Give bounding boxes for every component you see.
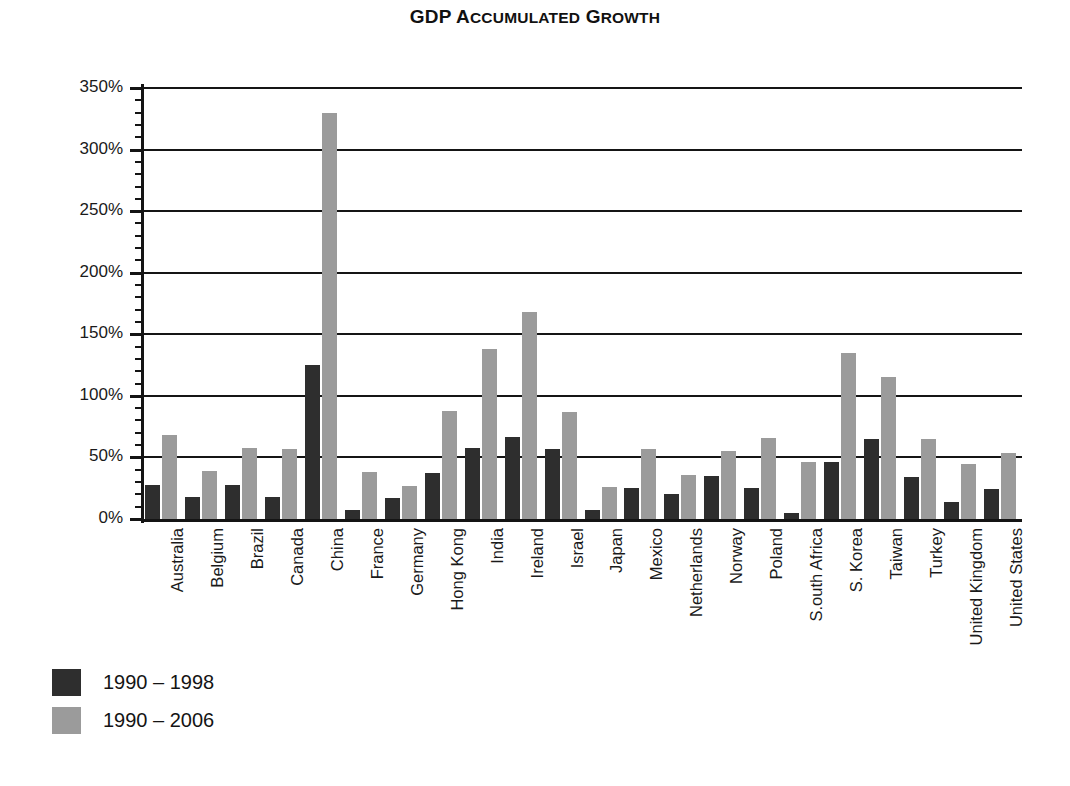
- y-tick-minor: [135, 259, 143, 261]
- bar-series1: [664, 494, 679, 519]
- bar-series2: [721, 451, 736, 519]
- bar-series2: [841, 353, 856, 519]
- bar-group: [383, 88, 423, 519]
- bar-series1: [425, 473, 440, 519]
- x-axis-tick-label: Belgium: [209, 528, 226, 668]
- y-tick-minor: [135, 198, 143, 200]
- x-axis-tick-label: Ireland: [529, 528, 546, 668]
- bar-series2: [442, 411, 457, 519]
- bar-group: [183, 88, 223, 519]
- chart-legend: 1990 – 19981990 – 2006: [52, 663, 214, 739]
- y-axis-tick-label: 250%: [80, 200, 123, 220]
- y-tick-major: [130, 272, 143, 275]
- y-tick-minor: [135, 296, 143, 298]
- y-axis-tick-label: 200%: [80, 262, 123, 282]
- bar-group: [303, 88, 343, 519]
- bar-series1: [784, 513, 799, 519]
- y-tick-minor: [135, 370, 143, 372]
- bar-series2: [522, 312, 537, 519]
- bar-group: [822, 88, 862, 519]
- y-tick-major: [130, 456, 143, 459]
- y-axis-tick-label: 350%: [80, 77, 123, 97]
- y-tick-major: [130, 87, 143, 90]
- bars-layer: [143, 88, 1022, 519]
- bar-group: [902, 88, 942, 519]
- legend-item: 1990 – 2006: [52, 701, 214, 739]
- bar-series1: [305, 365, 320, 519]
- y-tick-minor: [135, 407, 143, 409]
- y-tick-minor: [135, 309, 143, 311]
- bar-group: [503, 88, 543, 519]
- bar-series1: [345, 510, 360, 519]
- x-axis-tick-label: Hong Kong: [449, 528, 466, 668]
- bar-series1: [824, 462, 839, 519]
- bar-series1: [585, 510, 600, 519]
- y-tick-major: [130, 149, 143, 152]
- y-tick-major: [130, 333, 143, 336]
- legend-label: 1990 – 2006: [103, 709, 214, 732]
- bar-series2: [881, 377, 896, 519]
- y-tick-minor: [135, 346, 143, 348]
- bar-group: [702, 88, 742, 519]
- y-tick-minor: [135, 469, 143, 471]
- bar-group: [223, 88, 263, 519]
- x-axis-tick-label: United States: [1008, 528, 1025, 668]
- bar-series2: [641, 449, 656, 519]
- bar-series2: [1001, 453, 1016, 519]
- x-axis-tick-label: Mexico: [648, 528, 665, 668]
- bar-group: [742, 88, 782, 519]
- y-tick-minor: [135, 506, 143, 508]
- y-tick-minor: [135, 186, 143, 188]
- y-tick-minor: [135, 419, 143, 421]
- bar-group: [263, 88, 303, 519]
- x-axis-tick-label: Turkey: [928, 528, 945, 668]
- bar-series2: [602, 487, 617, 519]
- bar-series1: [145, 485, 160, 519]
- bar-group: [982, 88, 1022, 519]
- y-tick-major: [130, 518, 143, 521]
- x-axis-tick-label: Taiwan: [888, 528, 905, 668]
- bar-series2: [961, 464, 976, 519]
- bar-group: [862, 88, 902, 519]
- y-tick-minor: [135, 493, 143, 495]
- x-axis-tick-label: Japan: [608, 528, 625, 668]
- x-axis-tick-label: Israel: [569, 528, 586, 668]
- bar-group: [622, 88, 662, 519]
- y-tick-minor: [135, 432, 143, 434]
- chart-title: GDP ACCUMULATED GROWTH: [0, 6, 1070, 28]
- bar-series1: [704, 476, 719, 519]
- bar-series2: [761, 438, 776, 519]
- bar-group: [583, 88, 623, 519]
- x-axis-tick-label: Australia: [169, 528, 186, 668]
- bar-group: [942, 88, 982, 519]
- bar-series1: [505, 437, 520, 520]
- y-tick-major: [130, 210, 143, 213]
- bar-series2: [801, 462, 816, 519]
- x-axis-tick-label: Germany: [409, 528, 426, 668]
- y-tick-minor: [135, 383, 143, 385]
- x-axis-tick-label: Netherlands: [688, 528, 705, 668]
- y-axis-tick-label: 100%: [80, 385, 123, 405]
- x-axis-tick-label: France: [369, 528, 386, 668]
- x-axis-tick-label: Norway: [728, 528, 745, 668]
- y-tick-minor: [135, 136, 143, 138]
- x-axis-tick-label: India: [489, 528, 506, 668]
- legend-swatch: [52, 707, 81, 734]
- bar-series1: [185, 497, 200, 519]
- y-tick-minor: [135, 444, 143, 446]
- y-tick-minor: [135, 99, 143, 101]
- legend-swatch: [52, 669, 81, 696]
- y-tick-minor: [135, 284, 143, 286]
- y-tick-minor: [135, 222, 143, 224]
- y-tick-minor: [135, 173, 143, 175]
- y-tick-minor: [135, 112, 143, 114]
- bar-series2: [562, 412, 577, 519]
- y-axis-tick-label: 150%: [80, 323, 123, 343]
- bar-series1: [225, 485, 240, 519]
- bar-series1: [744, 488, 759, 519]
- legend-item: 1990 – 1998: [52, 663, 214, 701]
- x-axis-tick-label: S.outh Africa: [808, 528, 825, 668]
- bar-series2: [362, 472, 377, 519]
- bar-group: [143, 88, 183, 519]
- bar-group: [543, 88, 583, 519]
